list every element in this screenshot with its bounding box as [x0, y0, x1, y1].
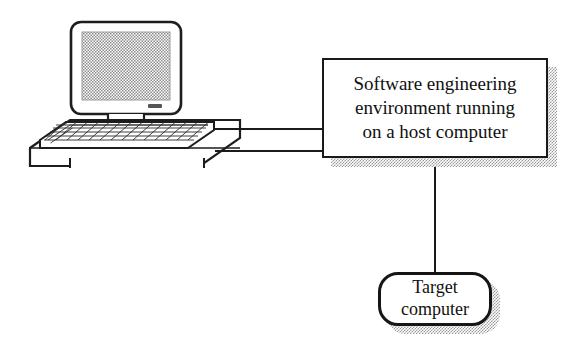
host-environment-label: Software engineering environment running… [347, 72, 522, 145]
power-indicator-icon [148, 104, 162, 108]
monitor-screen [82, 32, 170, 100]
desktop-computer-illustration [8, 18, 248, 168]
target-computer-label: Target computer [401, 277, 469, 320]
diagram-canvas: Software engineering environment running… [0, 0, 585, 364]
crt-monitor [71, 22, 181, 114]
target-computer-box: Target computer [378, 272, 492, 326]
connector-host-to-target [434, 157, 436, 273]
host-environment-box: Software engineering environment running… [322, 58, 548, 158]
cable-line-top [215, 128, 323, 130]
keyboard [40, 122, 214, 148]
cable-line-bottom [215, 150, 323, 152]
